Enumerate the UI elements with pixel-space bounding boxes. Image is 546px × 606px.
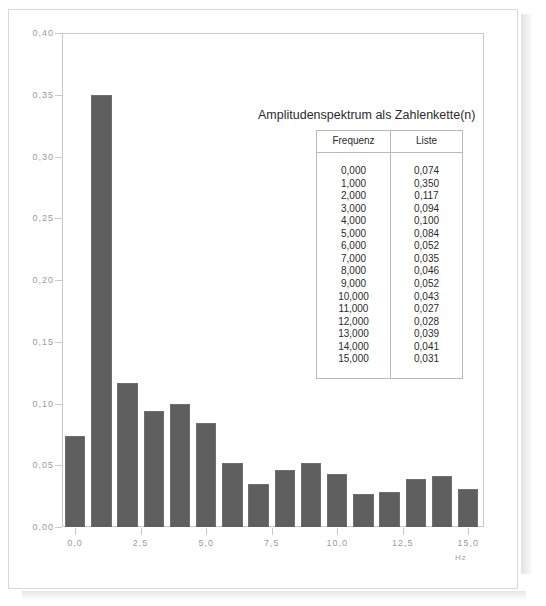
x-axis-tick [337,528,338,535]
table-cell-liste: 0,028 [391,316,463,329]
page-shadow-bottom [22,591,526,600]
y-axis-tick-label: 0,15 [14,337,54,347]
table-cell-frequenz: 8,000 [317,265,391,278]
table-cell-liste: 0,046 [391,265,463,278]
table-cell-liste: 0,100 [391,215,463,228]
table-header-cell: Frequenz [317,131,391,153]
table-cell-frequenz: 15,000 [317,353,391,366]
y-axis-labels: 0,400,350,300,250,200,150,100,050,00 [10,33,54,527]
y-axis-tick-label: 0,40 [14,28,54,38]
bar [65,436,85,527]
page-shadow-right [521,14,532,574]
y-axis-tick-label: 0,20 [14,275,54,285]
y-axis-tick-label: 0,25 [14,213,54,223]
bar [222,463,242,527]
table-cell-liste: 0,117 [391,190,463,203]
table-cell-frequenz: 2,000 [317,190,391,203]
table-tail-cell [317,366,391,379]
table-cell-liste: 0,074 [391,165,463,178]
table-cell-frequenz: 5,000 [317,228,391,241]
bar [196,423,216,527]
x-axis-ticks [62,528,490,536]
table-cell-liste: 0,052 [391,240,463,253]
bar [432,476,452,527]
x-axis-tick [468,528,469,535]
x-axis-tick-label: 15,0 [438,538,498,548]
table-cell-frequenz: 1,000 [317,178,391,191]
table-row: 7,0000,035 [317,253,463,266]
table-row: 3,0000,094 [317,203,463,216]
table-tail-cell [391,366,463,379]
table-cell-frequenz: 0,000 [317,165,391,178]
table-cell-liste: 0,027 [391,303,463,316]
y-axis-tick [55,95,62,96]
bar [379,492,399,527]
x-axis-tick [403,528,404,535]
table-header-cell: Liste [391,131,463,153]
table-row: 2,0000,117 [317,190,463,203]
table-cell-frequenz: 14,000 [317,341,391,354]
table-spacer-row [317,152,463,165]
table-cell-liste: 0,084 [391,228,463,241]
y-axis-tick [55,404,62,405]
table-row: 9,0000,052 [317,278,463,291]
bar [144,411,164,527]
table-row: 11,0000,027 [317,303,463,316]
table-row: 13,0000,039 [317,328,463,341]
table-row: 12,0000,028 [317,316,463,329]
table-tail-row [317,366,463,379]
x-axis-tick-label: 2,5 [111,538,171,548]
bar [301,463,321,527]
x-axis-tick [206,528,207,535]
table-cell-liste: 0,031 [391,353,463,366]
bar [327,474,347,527]
table-cell-frequenz: 12,000 [317,316,391,329]
table-cell-liste: 0,094 [391,203,463,216]
y-axis-tick-label: 0,35 [14,90,54,100]
x-axis-unit-label: Hz [455,553,467,562]
table-cell-liste: 0,043 [391,291,463,304]
y-axis-tick-label: 0,00 [14,522,54,532]
table-cell-frequenz: 7,000 [317,253,391,266]
table-cell-frequenz: 11,000 [317,303,391,316]
table-cell-frequenz: 9,000 [317,278,391,291]
table-row: 0,0000,074 [317,165,463,178]
bar [248,484,268,527]
table-row: 15,0000,031 [317,353,463,366]
table-row: 14,0000,041 [317,341,463,354]
bar [406,479,426,527]
table-row: 4,0000,100 [317,215,463,228]
y-axis-tick [55,218,62,219]
table-cell-frequenz: 13,000 [317,328,391,341]
table-cell-liste: 0,350 [391,178,463,191]
y-axis-tick [55,33,62,34]
y-axis-tick [55,280,62,281]
x-axis-tick [141,528,142,535]
x-axis-tick-label: 0,0 [45,538,105,548]
table-cell-frequenz: 3,000 [317,203,391,216]
y-axis-tick-label: 0,05 [14,460,54,470]
x-axis-tick-label: 5,0 [176,538,236,548]
table-row: 6,0000,052 [317,240,463,253]
table-cell-liste: 0,035 [391,253,463,266]
x-axis-tick-label: 12,5 [373,538,433,548]
table-cell-frequenz: 4,000 [317,215,391,228]
x-axis-labels: 0,02,55,07,510,012,515,0 [62,538,502,556]
chart-title: Amplitudenspektrum als Zahlenkette(n) [258,108,475,122]
bar [353,494,373,527]
bar [91,95,111,527]
table-cell-liste: 0,039 [391,328,463,341]
bar [170,404,190,528]
table-row: 1,0000,350 [317,178,463,191]
y-axis-tick [55,465,62,466]
table-cell-liste: 0,041 [391,341,463,354]
table-header-row: FrequenzListe [317,131,463,153]
table-row: 10,0000,043 [317,291,463,304]
table-spacer-cell [317,152,391,165]
table-cell-frequenz: 6,000 [317,240,391,253]
bar [275,470,295,527]
y-axis-tick [55,342,62,343]
x-axis-tick [272,528,273,535]
y-axis-tick-label: 0,30 [14,152,54,162]
y-axis-tick [55,527,62,528]
